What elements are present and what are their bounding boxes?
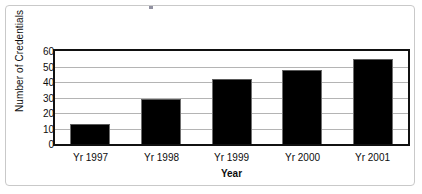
y-axis-tick-label: 50 [30,62,54,73]
y-axis-tick-label: 30 [30,93,54,104]
y-axis-tick-label: 0 [30,139,54,150]
bar [282,70,322,144]
y-axis-tick-label: 10 [30,124,54,135]
x-axis-tick-label: Yr 2000 [267,151,338,164]
x-axis-title: Year [53,167,410,180]
bar [141,99,181,144]
x-axis-tick-label: Yr 2001 [337,151,408,164]
y-axis-title: Number of Credentials [13,12,27,112]
x-axis-tick-labels: Yr 1997Yr 1998Yr 1999Yr 2000Yr 2001 [53,151,410,164]
bar [353,59,393,144]
x-axis-tick-label: Yr 1997 [55,151,126,164]
y-axis-tick-labels: 6050403020100 [30,49,54,151]
plot-area [53,49,410,146]
figure-frame: Number of Credentials 6050403020100 Yr 1… [5,5,415,186]
y-axis-tick-label: 20 [30,108,54,119]
y-axis-tick-label: 60 [30,46,54,57]
bar [70,124,110,144]
bars-layer [55,51,408,144]
scan-artifact [149,6,153,9]
x-axis-tick-label: Yr 1999 [196,151,267,164]
x-axis-tick-label: Yr 1998 [126,151,197,164]
bar [212,79,252,144]
y-axis-tick-label: 40 [30,77,54,88]
